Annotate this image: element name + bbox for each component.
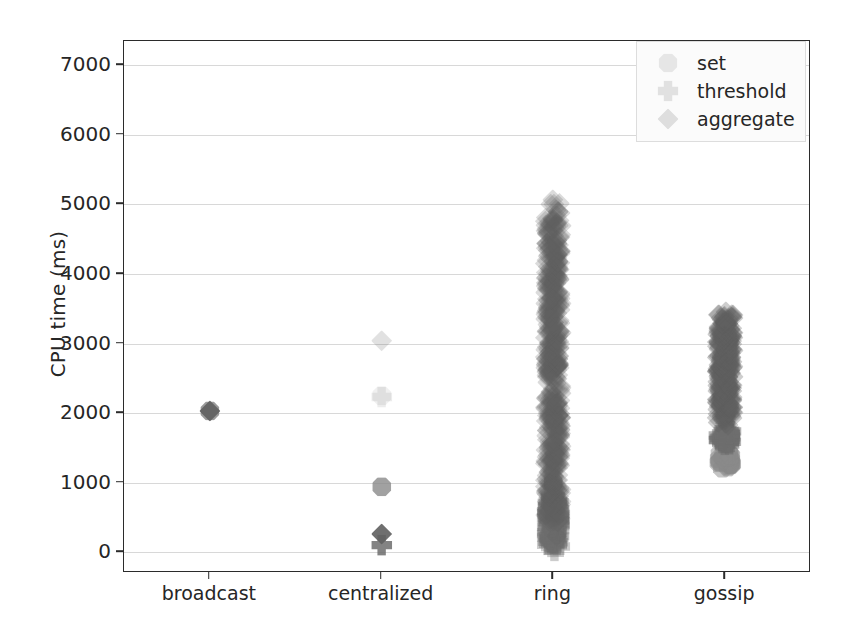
x-marker-icon <box>645 78 691 104</box>
y-tick-label: 3000 <box>0 331 111 355</box>
y-tick-mark <box>116 481 123 483</box>
y-tick-mark <box>116 133 123 135</box>
x-tick-mark <box>552 572 554 579</box>
y-tick-mark <box>116 342 123 344</box>
data-point-aggregate <box>371 330 392 351</box>
x-tick-label-gossip: gossip <box>694 582 755 604</box>
data-point-threshold <box>371 387 392 408</box>
octagon-marker-icon <box>645 50 691 76</box>
y-tick-mark <box>116 272 123 274</box>
y-tick-label: 7000 <box>0 52 111 76</box>
y-tick-label: 1000 <box>0 470 111 494</box>
y-tick-label: 5000 <box>0 191 111 215</box>
x-tick-label-centralized: centralized <box>328 582 433 604</box>
x-tick-mark <box>723 572 725 579</box>
y-tick-label: 4000 <box>0 261 111 285</box>
data-point-aggregate <box>371 524 392 545</box>
y-tick-mark <box>116 411 123 413</box>
figure: CPU time (ms) 01000200030004000500060007… <box>0 0 843 631</box>
x-tick-label-broadcast: broadcast <box>162 582 256 604</box>
legend-item-set[interactable]: set <box>645 49 797 77</box>
gridline-y <box>124 274 809 275</box>
x-tick-mark <box>208 572 210 579</box>
legend-item-aggregate[interactable]: aggregate <box>645 105 797 133</box>
gridline-y <box>124 204 809 205</box>
x-tick-mark <box>380 572 382 579</box>
legend-label: set <box>697 52 726 74</box>
gridline-y <box>124 483 809 484</box>
chart-legend[interactable]: setthresholdaggregate <box>636 41 806 142</box>
y-tick-label: 0 <box>0 539 111 563</box>
data-point-set <box>372 477 391 496</box>
diamond-marker-icon <box>645 106 691 132</box>
y-tick-mark <box>116 203 123 205</box>
legend-item-threshold[interactable]: threshold <box>645 77 797 105</box>
y-tick-label: 2000 <box>0 400 111 424</box>
data-point-aggregate <box>714 306 735 327</box>
legend-label: aggregate <box>697 108 795 130</box>
y-tick-mark <box>116 64 123 66</box>
data-point-aggregate <box>535 211 556 232</box>
gridline-y <box>124 552 809 553</box>
x-tick-label-ring: ring <box>534 582 571 604</box>
data-point-aggregate <box>199 400 220 421</box>
y-tick-label: 6000 <box>0 122 111 146</box>
y-tick-mark <box>116 550 123 552</box>
legend-label: threshold <box>697 80 786 102</box>
